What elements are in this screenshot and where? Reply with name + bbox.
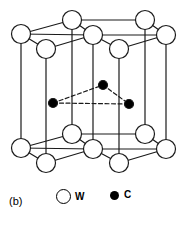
carbon-atom-C-top [99,81,108,90]
open-circle-icon [56,189,71,204]
legend-item-tungsten: W [56,189,84,204]
tungsten-atom-T-right [157,26,176,45]
legend-label-carbon: C [124,190,131,200]
tungsten-atom-B-back-mid [63,125,82,144]
tungsten-atom-B-front-right [110,154,129,173]
tungsten-atom-T-center [84,26,103,45]
tungsten-atom-B-back-right [136,125,155,144]
tungsten-atom-T-back-left [12,25,31,44]
top-face-edge-back-left-center [21,34,93,35]
crystal-structure-figure: (b) W C [0,0,187,225]
tungsten-atom-T-front-left [37,40,56,59]
tungsten-atom-B-center [84,140,103,159]
tungsten-atom-B-front-left [37,154,56,173]
tungsten-atom-T-back-right [136,11,155,30]
legend-item-carbon: C [108,190,131,200]
tungsten-atom-T-back-mid [63,11,82,30]
legend-label-tungsten: W [75,192,84,202]
tungsten-atom-B-right [157,140,176,159]
filled-circle-icon [110,191,119,200]
tungsten-atom-T-front-right [110,40,129,59]
carbon-bond-C-left-C-right [53,103,129,104]
carbon-atom-C-right [125,100,134,109]
carbon-bond-dashed-lines-group [53,85,129,104]
carbon-atom-C-left [49,99,58,108]
figure-legend: (b) W C [0,186,187,222]
panel-label: (b) [9,195,22,207]
bottom-face-edge-back-left-center [21,148,93,149]
carbon-bond-C-left-C-top [53,85,103,103]
tungsten-atom-B-back-left [12,139,31,158]
